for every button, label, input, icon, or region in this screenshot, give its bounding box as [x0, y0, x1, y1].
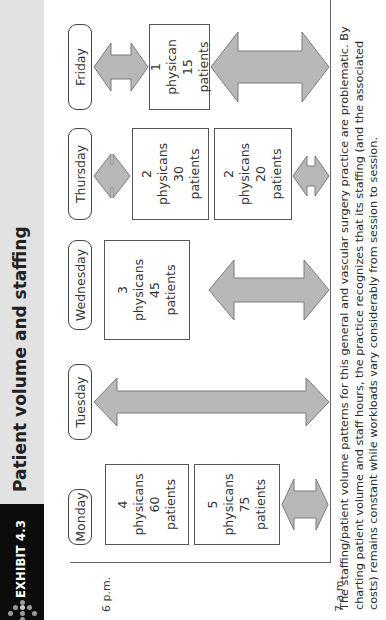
- baseline: [330, 0, 331, 563]
- physician-count: 2: [139, 170, 155, 178]
- day-label-text: Friday: [73, 48, 88, 86]
- patient-count: 15: [180, 59, 196, 75]
- patient-count: 45: [147, 282, 163, 298]
- day-label-text: Monday: [73, 492, 88, 541]
- physician-count: 2: [221, 170, 237, 178]
- patient-count: 60: [147, 497, 163, 513]
- double-arrow-icon: [208, 258, 330, 322]
- double-arrow-icon: [93, 364, 330, 440]
- session-box-monday-2: 5 physicans 75 patients: [194, 464, 280, 545]
- double-arrow-icon: [93, 144, 131, 208]
- day-label-text: Wednesday: [73, 249, 88, 321]
- exhibit-number: EXHIBIT 4.3: [14, 520, 28, 598]
- session-box-thursday-1: 2 physicans 30 patients: [132, 128, 209, 220]
- patient-label: patients: [269, 149, 285, 200]
- day-label-friday: Friday: [68, 24, 92, 110]
- physician-label: physicans: [131, 259, 147, 321]
- patient-label: patients: [253, 479, 269, 530]
- double-arrow-icon: [280, 464, 330, 545]
- end-time-label: 6 p.m.: [100, 577, 113, 612]
- physician-label: physicans: [155, 143, 171, 205]
- physician-label: physican: [164, 39, 180, 95]
- day-label-monday: Monday: [68, 489, 92, 545]
- double-arrow-icon: [210, 28, 330, 106]
- dotted-arrow-icon: [0, 600, 44, 620]
- day-label-text: Thursday: [73, 145, 88, 203]
- session-box-monday-1: 4 physicans 60 patients: [105, 464, 189, 545]
- exhibit-caption: The staffing/patient volume patterns for…: [338, 4, 382, 610]
- patient-label: patients: [187, 149, 203, 200]
- day-label-tuesday: Tuesday: [68, 364, 92, 440]
- double-arrow-icon: [93, 35, 149, 99]
- session-box-wednesday-1: 3 physicans 45 patients: [104, 240, 190, 340]
- patient-label: patients: [163, 479, 179, 530]
- day-label-wednesday: Wednesday: [68, 240, 92, 330]
- exhibit-label-block: EXHIBIT 4.3: [0, 504, 44, 620]
- physician-count: 4: [115, 501, 131, 509]
- day-label-thursday: Thursday: [68, 128, 92, 220]
- physician-label: physicans: [221, 473, 237, 535]
- physician-label: physicans: [131, 473, 147, 535]
- physician-label: physicans: [237, 143, 253, 205]
- time-axis-start-line: [70, 562, 330, 563]
- patient-count: 75: [237, 497, 253, 513]
- day-label-text: Tuesday: [73, 377, 88, 428]
- double-arrow-icon: [292, 148, 330, 204]
- patient-count: 30: [171, 166, 187, 182]
- patient-label: patients: [163, 265, 179, 316]
- patient-count: 20: [253, 166, 269, 182]
- exhibit-title: Patient volume and staffing: [10, 226, 30, 492]
- session-box-friday-1: 1 physican 15 patients: [149, 24, 210, 110]
- physician-count: 1: [148, 63, 164, 71]
- physician-count: 5: [205, 501, 221, 509]
- physician-count: 3: [115, 286, 131, 294]
- session-box-thursday-2: 2 physicans 20 patients: [214, 128, 292, 220]
- exhibit-page: EXHIBIT 4.3 Patient volume and staffing …: [0, 0, 386, 620]
